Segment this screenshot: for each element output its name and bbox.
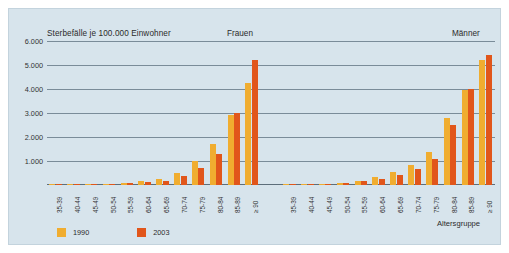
- bar-1990: [228, 115, 234, 185]
- legend-item[interactable]: 1990: [57, 228, 89, 237]
- bar-group: [85, 41, 101, 185]
- bar-1990: [355, 181, 361, 185]
- panel-label-frauen: Frauen: [227, 29, 253, 38]
- bar-group: [121, 41, 137, 185]
- bar-group: [301, 41, 317, 185]
- bar-1990: [67, 184, 73, 185]
- panel-label-maenner: Männer: [452, 29, 480, 38]
- bar-group: [319, 41, 335, 185]
- bar-2003: [415, 169, 421, 185]
- bar-1990: [444, 118, 450, 185]
- bar-2003: [432, 159, 438, 185]
- bar-2003: [234, 113, 240, 185]
- x-axis-labels-maenner: 35-3940-4445-4950-5455-5960-6465-6970-74…: [281, 187, 495, 217]
- bar-2003: [450, 125, 456, 185]
- bar-group: [156, 41, 172, 185]
- bar-2003: [308, 184, 314, 185]
- x-axis-tick-label: 35-39: [290, 197, 297, 213]
- x-axis-tick-label: 65-69: [397, 197, 404, 213]
- bar-2003: [74, 184, 80, 185]
- bar-group: [462, 41, 478, 185]
- y-axis-tick-label: 4.000: [25, 85, 43, 94]
- x-axis-tick-label: 80-84: [217, 197, 224, 213]
- bar-group: [210, 41, 226, 185]
- bar-2003: [109, 184, 115, 185]
- legend-item[interactable]: 2003: [137, 228, 169, 237]
- bar-panel-maenner: [281, 41, 495, 185]
- bar-2003: [145, 182, 151, 185]
- bar-1990: [121, 183, 127, 185]
- x-axis-tick-label: 70-74: [415, 197, 422, 213]
- bar-1990: [49, 184, 55, 185]
- x-axis-tick-label: 40-44: [74, 197, 81, 213]
- x-axis-tick-label: 75-79: [433, 197, 440, 213]
- bar-1990: [408, 165, 414, 185]
- bar-2003: [252, 60, 258, 185]
- x-axis-tick-label: 75-79: [199, 197, 206, 213]
- bar-1990: [301, 184, 307, 185]
- bar-2003: [216, 154, 222, 185]
- bar-group: [390, 41, 406, 185]
- bar-1990: [319, 184, 325, 185]
- x-axis-tick-label: ≥ 90: [486, 201, 493, 213]
- bar-2003: [91, 184, 97, 185]
- bar-2003: [181, 176, 187, 185]
- bar-2003: [198, 168, 204, 185]
- x-axis-tick-label: 45-49: [92, 197, 99, 213]
- bar-1990: [479, 60, 485, 185]
- bar-group: [479, 41, 495, 185]
- bar-group: [138, 41, 154, 185]
- x-axis-tick-label: ≥ 90: [252, 201, 259, 213]
- bar-1990: [156, 179, 162, 185]
- bar-panel-frauen: [47, 41, 261, 185]
- plot-area: [47, 41, 495, 185]
- x-axis-tick-label: 60-64: [145, 197, 152, 213]
- bar-group: [245, 41, 261, 185]
- bar-2003: [379, 179, 385, 185]
- x-axis-tick-label: 40-44: [308, 197, 315, 213]
- y-axis-tick-label: 2.000: [25, 133, 43, 142]
- x-axis-tick-label: 60-64: [379, 197, 386, 213]
- bar-1990: [192, 161, 198, 185]
- x-axis-tick-label: 85-89: [468, 197, 475, 213]
- bar-group: [355, 41, 371, 185]
- bar-2003: [163, 181, 169, 185]
- x-axis-tick-label: 80-84: [451, 197, 458, 213]
- bar-2003: [127, 183, 133, 185]
- legend: 19902003: [57, 228, 217, 237]
- bar-1990: [210, 144, 216, 185]
- bar-1990: [372, 177, 378, 185]
- x-axis-tick-label: 50-54: [344, 197, 351, 213]
- x-axis-tick-label: 85-89: [234, 197, 241, 213]
- bar-1990: [245, 83, 251, 185]
- bar-1990: [103, 184, 109, 185]
- bar-2003: [361, 181, 367, 185]
- bar-group: [67, 41, 83, 185]
- bar-1990: [85, 184, 91, 185]
- bar-2003: [397, 175, 403, 185]
- bar-group: [174, 41, 190, 185]
- chart-container: Sterbefälle je 100.000 Einwohner Frauen …: [8, 8, 501, 245]
- bar-2003: [343, 183, 349, 185]
- x-axis-tick-label: 55-59: [127, 197, 134, 213]
- x-axis-tick-label: 35-39: [56, 197, 63, 213]
- bar-group: [192, 41, 208, 185]
- x-axis-tick-label: 50-54: [110, 197, 117, 213]
- bar-2003: [290, 184, 296, 185]
- bar-group: [444, 41, 460, 185]
- chart-title: Sterbefälle je 100.000 Einwohner: [47, 29, 171, 38]
- bar-1990: [138, 181, 144, 185]
- bar-group: [372, 41, 388, 185]
- bar-1990: [462, 90, 468, 185]
- legend-label: 2003: [153, 228, 169, 237]
- y-axis-tick-label: 6.000: [25, 37, 43, 46]
- x-axis-labels-frauen: 35-3940-4445-4950-5455-5960-6465-6970-74…: [47, 187, 261, 217]
- legend-swatch-icon: [57, 228, 66, 237]
- bar-1990: [426, 152, 432, 185]
- legend-label: 1990: [73, 228, 89, 237]
- bar-1990: [283, 184, 289, 185]
- y-axis-tick-label: 3.000: [25, 109, 43, 118]
- bar-2003: [486, 55, 492, 185]
- bar-2003: [325, 184, 331, 185]
- y-axis-tick-label: 1.000: [25, 157, 43, 166]
